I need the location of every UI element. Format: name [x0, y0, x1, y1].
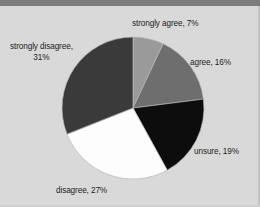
chart-page: strongly agree, 7% agree, 16% unsure, 19…: [0, 0, 260, 207]
slice-label-agree: agree, 16%: [190, 58, 231, 68]
slice-label-unsure: unsure, 19%: [194, 147, 239, 157]
pie-slices: [62, 37, 204, 179]
slice-label-strongly-disagree: strongly disagree, 31%: [10, 42, 73, 63]
slice-label-strongly-agree: strongly agree, 7%: [132, 19, 198, 29]
slice-label-disagree: disagree, 27%: [56, 186, 107, 196]
pie-chart-svg: [0, 6, 260, 207]
pie-chart: strongly agree, 7% agree, 16% unsure, 19…: [0, 6, 260, 207]
